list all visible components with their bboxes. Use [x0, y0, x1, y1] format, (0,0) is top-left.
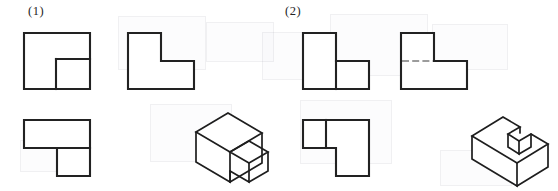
group-2-isometric-view [0, 0, 558, 191]
worksheet-sheet: (1) [0, 0, 558, 191]
exercise-group-2: (2) [0, 0, 558, 191]
